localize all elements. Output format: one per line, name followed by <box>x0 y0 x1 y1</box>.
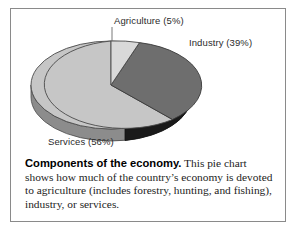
figure-panel: Agriculture (5%) Industry (39%) Services… <box>10 8 286 222</box>
figure-caption: Components of the economy. This pie char… <box>25 157 273 211</box>
caption-lead-in: Components of the economy. <box>25 157 181 169</box>
slice-label-industry: Industry (39%) <box>189 37 252 48</box>
slice-label-services: Services (56%) <box>48 136 114 147</box>
slice-label-agriculture: Agriculture (5%) <box>114 15 184 26</box>
pie-chart: Agriculture (5%) Industry (39%) Services… <box>11 9 287 151</box>
